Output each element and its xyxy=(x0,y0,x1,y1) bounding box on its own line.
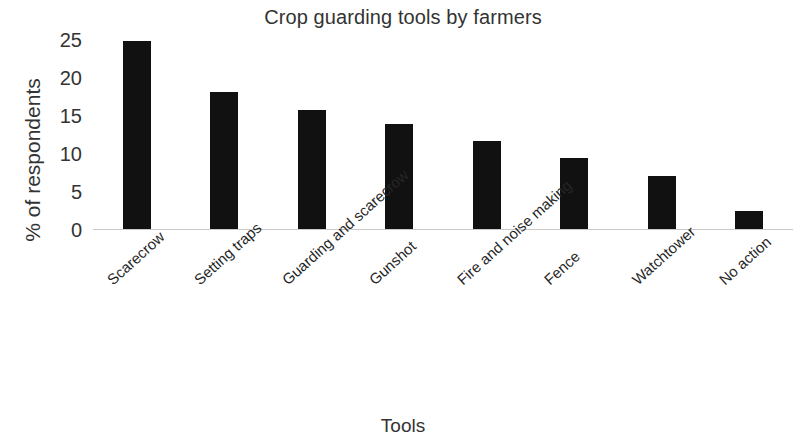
bar xyxy=(210,92,238,229)
bar xyxy=(298,110,326,229)
y-axis-tick-label: 25 xyxy=(42,30,82,50)
x-axis-tick-labels: ScarecrowSetting trapsGuarding and scare… xyxy=(0,232,806,392)
bar xyxy=(648,176,676,229)
y-axis-tick-label: 15 xyxy=(42,106,82,126)
x-axis-title: Tools xyxy=(0,415,806,437)
y-axis-tick-label: 10 xyxy=(42,144,82,164)
x-axis-tick-label: Scarecrow xyxy=(104,229,167,288)
bar-chart-figure: Crop guarding tools by farmers % of resp… xyxy=(0,0,806,446)
x-axis-tick-label: No action xyxy=(717,234,775,288)
x-axis-tick-label: Gunshot xyxy=(367,238,420,288)
y-axis-tick-label: 20 xyxy=(42,68,82,88)
y-axis-tick-label: 5 xyxy=(42,182,82,202)
chart-title: Crop guarding tools by farmers xyxy=(0,6,806,29)
x-axis-tick-label: Fence xyxy=(542,248,584,288)
plot-area xyxy=(93,40,793,230)
bar xyxy=(473,141,501,229)
x-axis-tick-label: Watchtower xyxy=(629,223,698,288)
bar xyxy=(123,41,151,229)
bar xyxy=(735,211,763,229)
